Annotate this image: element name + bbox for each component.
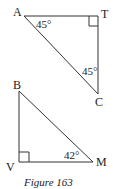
right-angle-marker-t [89, 16, 98, 26]
angle-label-m: 42° [64, 149, 79, 161]
vertex-label-c: C [95, 95, 103, 109]
vertex-label-a: A [13, 5, 22, 19]
angle-label-a: 45° [36, 18, 51, 30]
edge-bm [19, 91, 93, 162]
vertex-label-t: T [101, 7, 109, 21]
triangle-bvm: B V M 42° [6, 78, 107, 174]
right-angle-marker-v [19, 152, 29, 162]
figure-diagram: A T C 45° 45° B V M 42° Figure 163 [0, 0, 115, 189]
triangle-atc: A T C 45° 45° [13, 5, 109, 109]
vertex-label-m: M [96, 155, 107, 169]
vertex-label-b: B [13, 78, 21, 92]
figure-caption: Figure 163 [23, 176, 73, 188]
angle-label-c: 45° [82, 65, 97, 77]
vertex-label-v: V [6, 160, 15, 174]
